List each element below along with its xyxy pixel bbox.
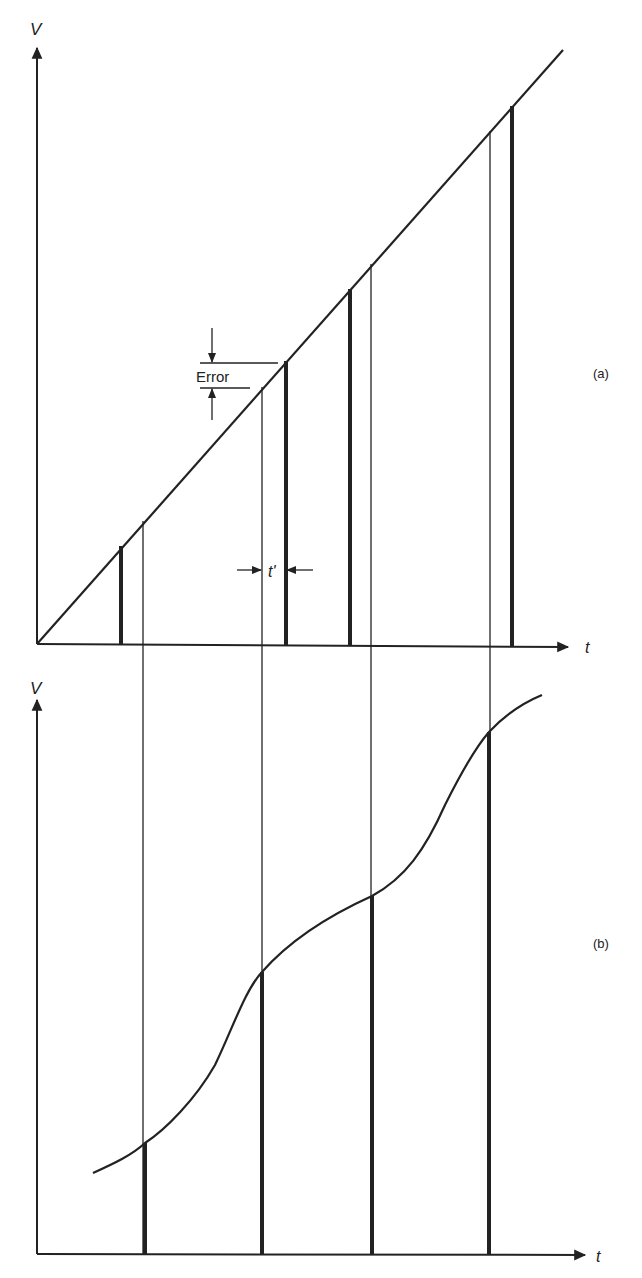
panel-a: V t Error t' (a) — [30, 20, 609, 1254]
error-annotation: Error — [196, 328, 278, 420]
ramp-line — [37, 50, 563, 644]
signal-curve — [93, 695, 542, 1173]
b-x-axis-label: t — [596, 1248, 601, 1265]
panel-a-label: (a) — [593, 366, 609, 381]
b-y-axis-label: V — [30, 679, 43, 698]
b-x-axis — [37, 1254, 585, 1255]
delay-annotation: t' — [237, 563, 313, 580]
a-x-axis — [37, 644, 568, 647]
panel-b: V t (b) — [30, 679, 609, 1265]
a-x-axis-label: t — [585, 639, 590, 656]
delay-label: t' — [268, 563, 276, 580]
diagram-canvas: V t Error t' (a) V — [0, 0, 642, 1278]
panel-b-label: (b) — [593, 936, 609, 951]
a-y-axis-label: V — [30, 20, 43, 39]
error-label: Error — [196, 368, 229, 385]
